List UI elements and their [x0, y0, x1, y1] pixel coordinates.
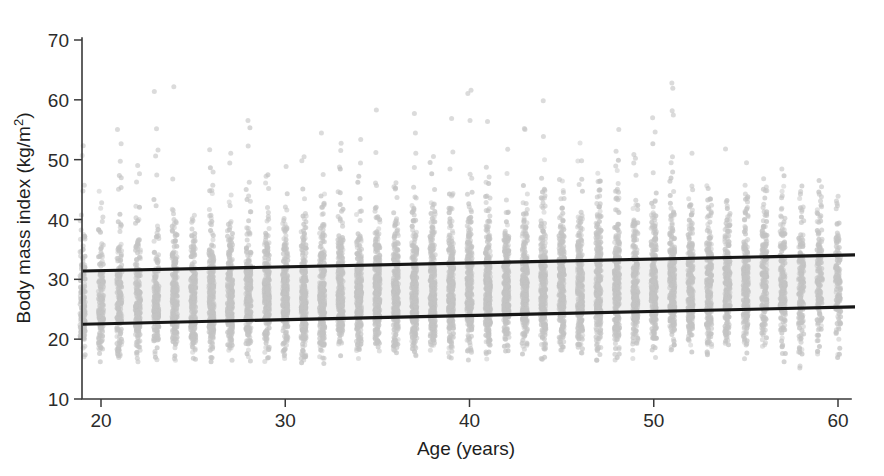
data-point	[815, 207, 820, 212]
data-point	[543, 325, 548, 330]
data-point	[340, 303, 345, 308]
data-point	[835, 248, 840, 253]
data-point	[396, 233, 401, 238]
data-point	[280, 342, 285, 347]
data-point	[374, 298, 379, 303]
data-point	[209, 188, 214, 193]
data-point	[520, 247, 525, 252]
data-point	[282, 228, 287, 233]
data-point	[137, 338, 142, 343]
data-point	[156, 148, 161, 153]
data-point	[799, 272, 804, 277]
x-tick-label: 40	[459, 410, 480, 431]
x-tick-label: 30	[275, 410, 296, 431]
data-point	[281, 278, 286, 283]
data-point	[469, 350, 474, 355]
data-point	[281, 247, 286, 252]
data-point	[521, 243, 526, 248]
data-point	[503, 274, 508, 279]
data-point	[320, 222, 325, 227]
data-point	[266, 276, 271, 281]
data-point	[671, 189, 676, 194]
data-point	[285, 274, 290, 279]
data-point	[797, 334, 802, 339]
data-point	[375, 275, 380, 280]
data-point	[227, 306, 232, 311]
data-point	[596, 234, 601, 239]
data-point	[173, 276, 178, 281]
data-point	[541, 98, 546, 103]
data-point	[617, 322, 622, 327]
data-point	[484, 165, 489, 170]
data-point	[338, 202, 343, 207]
data-point	[283, 337, 288, 342]
data-point	[505, 171, 510, 176]
data-point	[596, 273, 601, 278]
data-point	[79, 227, 84, 232]
data-point	[818, 289, 823, 294]
data-point	[669, 81, 674, 86]
data-point	[487, 266, 492, 271]
data-point	[393, 329, 398, 334]
data-point	[797, 258, 802, 263]
data-point	[577, 270, 582, 275]
data-point	[245, 118, 250, 123]
data-point	[208, 348, 213, 353]
data-point	[174, 220, 179, 225]
data-point	[669, 297, 674, 302]
data-point	[358, 196, 363, 201]
data-point	[838, 321, 843, 326]
data-point	[505, 295, 510, 300]
data-point	[413, 234, 418, 239]
data-point	[580, 346, 585, 351]
data-point	[668, 201, 673, 206]
data-point	[540, 357, 545, 362]
data-point	[208, 213, 213, 218]
data-point	[376, 331, 381, 336]
data-point	[653, 227, 658, 232]
data-point	[761, 311, 766, 316]
data-point	[686, 262, 691, 267]
data-point	[171, 294, 176, 299]
data-point	[669, 267, 674, 272]
data-point	[191, 345, 196, 350]
data-point	[450, 345, 455, 350]
data-point	[580, 189, 585, 194]
data-point	[284, 302, 289, 307]
data-point	[559, 348, 564, 353]
data-point	[468, 269, 473, 274]
data-point	[744, 292, 749, 297]
data-point	[815, 322, 820, 327]
data-point	[338, 339, 343, 344]
data-point	[266, 347, 271, 352]
data-point	[616, 347, 621, 352]
data-point	[561, 281, 566, 286]
data-point	[635, 203, 640, 208]
data-point	[560, 219, 565, 224]
y-axis-title-main: Body mass index (kg/m	[13, 126, 34, 323]
data-point	[319, 234, 324, 239]
data-point	[558, 230, 563, 235]
data-point	[672, 244, 677, 249]
data-point	[409, 240, 414, 245]
data-point	[723, 316, 728, 321]
data-point	[559, 206, 564, 211]
data-point	[154, 334, 159, 339]
y-tick-label: 50	[48, 150, 69, 171]
data-point	[173, 271, 178, 276]
data-point	[578, 225, 583, 230]
data-point	[744, 351, 749, 356]
data-point	[468, 280, 473, 285]
data-point	[578, 216, 583, 221]
data-point	[649, 284, 654, 289]
data-point	[301, 237, 306, 242]
data-point	[616, 158, 621, 163]
data-point	[577, 182, 582, 187]
data-point	[97, 297, 102, 302]
data-point	[265, 205, 270, 210]
data-point	[834, 273, 839, 278]
data-point	[466, 219, 471, 224]
data-point	[188, 285, 193, 290]
data-point	[613, 164, 618, 169]
data-point	[743, 192, 748, 197]
